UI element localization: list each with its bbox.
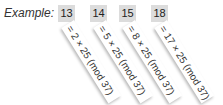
example-label: Example: (4, 6, 54, 20)
